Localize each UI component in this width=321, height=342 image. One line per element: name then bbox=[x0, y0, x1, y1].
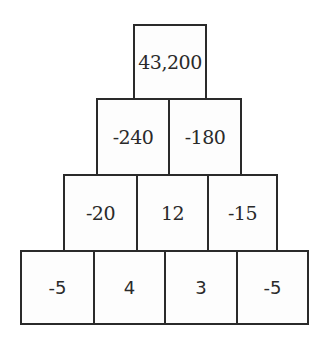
pyramid-cell: 3 bbox=[164, 250, 238, 325]
pyramid-cell: 12 bbox=[136, 174, 209, 252]
pyramid-cell: -20 bbox=[63, 174, 138, 252]
pyramid-cell-top: 43,200 bbox=[133, 24, 207, 100]
pyramid-cell: -240 bbox=[96, 98, 170, 176]
pyramid-cell: -180 bbox=[168, 98, 242, 176]
pyramid-cell: -5 bbox=[20, 250, 95, 325]
pyramid-cell: 4 bbox=[93, 250, 166, 325]
pyramid-cell: -5 bbox=[236, 250, 309, 325]
pyramid-cell: -15 bbox=[207, 174, 278, 252]
